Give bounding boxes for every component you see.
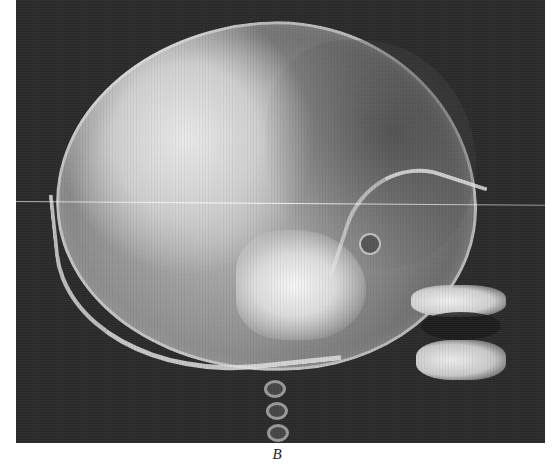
cervical-vertebra (264, 380, 286, 398)
mouth-gap (421, 312, 501, 340)
xray-image (16, 0, 545, 443)
lower-teeth (416, 340, 506, 380)
cervical-vertebra (266, 402, 288, 420)
sinus (361, 235, 379, 253)
figure-caption: B (0, 446, 554, 463)
cervical-vertebra (267, 424, 289, 442)
